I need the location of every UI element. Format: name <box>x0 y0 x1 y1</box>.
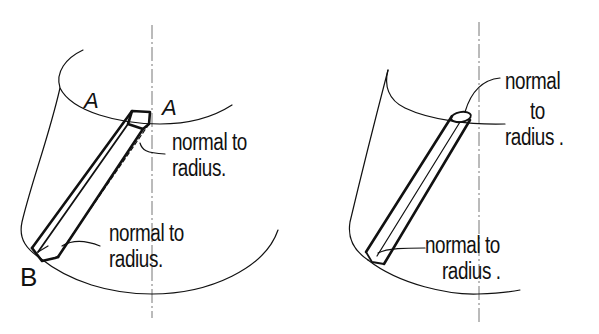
left-point-label-b: B <box>20 262 37 293</box>
left-cylinder <box>21 25 278 318</box>
left-top-leader <box>140 143 165 154</box>
left-bottom-annotation-line1: normal to <box>109 222 184 245</box>
left-point-label-a1: A <box>84 88 99 114</box>
diagram-canvas: A A B normal to radius. normal to radius… <box>0 0 599 334</box>
right-side-edge <box>349 70 388 260</box>
left-bottom-annotation-line2: radius. <box>109 248 163 271</box>
left-side-edge <box>21 88 60 258</box>
right-bottom-annotation-line1: normal to <box>425 234 500 257</box>
right-top-annotation-line3: radius . <box>505 126 564 149</box>
left-point-label-a2: A <box>162 95 177 121</box>
right-bottom-annotation-line2: radius . <box>442 260 501 283</box>
right-bottom-leader <box>378 248 425 253</box>
right-top-annotation-line1: normal <box>505 70 560 93</box>
sketch-lines <box>0 0 599 334</box>
right-top-edge <box>387 70 505 124</box>
right-top-leader <box>465 78 500 112</box>
right-top-annotation-line2: to <box>530 100 545 123</box>
left-top-annotation-line1: normal to <box>172 131 247 154</box>
left-top-annotation-line2: radius. <box>172 157 226 180</box>
